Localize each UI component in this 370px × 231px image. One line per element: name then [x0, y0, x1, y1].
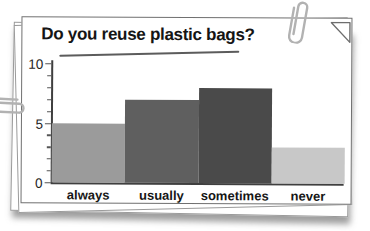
bar-chart: 0510alwaysusuallysometimesnever: [22, 17, 352, 204]
y-axis-minor-tick: [47, 170, 51, 171]
y-axis-major-tick: [45, 63, 51, 64]
y-axis-minor-tick: [47, 75, 51, 76]
y-axis-minor-tick: [47, 147, 51, 148]
y-axis-minor-tick: [47, 135, 51, 136]
desk-scene: Do you reuse plastic bags? 0510alwaysusu…: [0, 0, 370, 231]
x-axis-label-always: always: [67, 187, 110, 202]
y-axis-minor-tick: [47, 99, 51, 100]
folded-corner-icon: [330, 22, 351, 44]
y-axis-minor-tick: [47, 111, 51, 112]
x-axis-label-never: never: [291, 189, 326, 204]
y-axis-tick-label: 0: [21, 176, 43, 191]
bar-usually: [125, 99, 199, 183]
y-axis-minor-tick: [47, 87, 51, 88]
y-axis-tick-label: 10: [21, 57, 43, 72]
bar-never: [271, 148, 344, 184]
y-axis-minor-tick: [47, 158, 51, 159]
paperclip-icon: [0, 94, 31, 120]
bar-sometimes: [198, 88, 272, 184]
y-axis-major-tick: [45, 182, 51, 183]
bar-always: [52, 123, 126, 183]
x-axis-label-sometimes: sometimes: [201, 188, 269, 203]
x-axis-label-usually: usually: [139, 188, 184, 203]
y-axis-major-tick: [45, 123, 51, 124]
